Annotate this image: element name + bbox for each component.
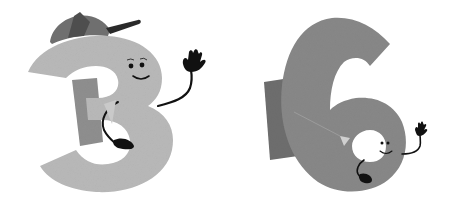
character-six: [264, 18, 427, 192]
character-three: [28, 12, 206, 192]
illustration: [0, 0, 456, 201]
three-left-eye: [129, 64, 134, 69]
six-left-eye: [381, 142, 384, 145]
three-right-eye: [140, 63, 145, 68]
six-body: [281, 18, 406, 192]
six-waving-hand-icon: [415, 122, 427, 137]
three-right-arm: [158, 70, 192, 106]
cap-brim: [106, 20, 141, 34]
numbers-illustration: [0, 0, 456, 201]
six-right-eye: [387, 142, 390, 145]
three-body: [28, 36, 173, 192]
three-waving-hand-icon: [183, 49, 206, 72]
